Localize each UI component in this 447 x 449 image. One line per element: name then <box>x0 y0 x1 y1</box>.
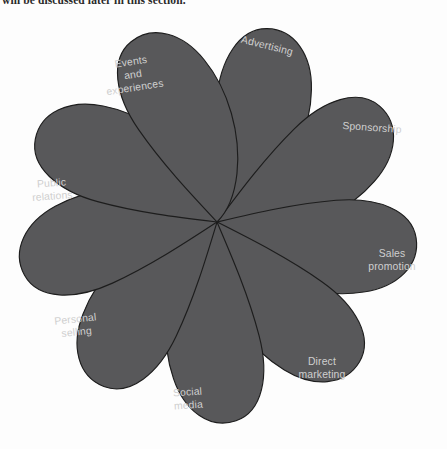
petal-label-line: Direct <box>308 355 336 366</box>
petal-label-line: media <box>174 398 204 411</box>
petal-label-line: marketing <box>299 368 346 379</box>
petal-diagram-svg: AdvertisingSponsorshipSalespromotionDire… <box>0 8 447 449</box>
petal-diagram-figure: AdvertisingSponsorshipSalespromotionDire… <box>0 8 447 449</box>
petal-label-line: Sales <box>379 247 406 258</box>
body-text-fragment: will be discussed later in this section. <box>2 0 282 7</box>
page-root: will be discussed later in this section.… <box>0 0 447 449</box>
petal-label-line: promotion <box>368 260 416 271</box>
petal-label-line: Public <box>37 176 67 189</box>
petal-group <box>12 16 425 424</box>
petal-label-line: Social <box>173 385 203 398</box>
